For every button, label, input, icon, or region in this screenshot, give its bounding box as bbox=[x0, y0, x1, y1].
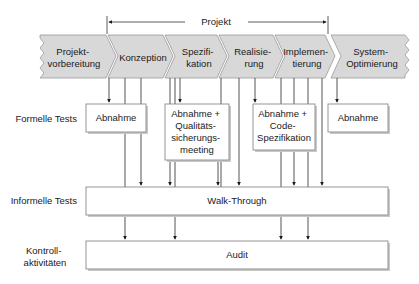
svg-text:Abnahme: Abnahme bbox=[338, 112, 379, 123]
phase-test-diagram: Projekt Projekt- vorbereitung Konzeption… bbox=[0, 0, 419, 284]
row-label-control-activities: Kontroll- aktivitäten bbox=[24, 245, 67, 268]
phase-label-spezifikation: Spezifi- kation bbox=[182, 46, 216, 69]
phase-label-konzeption: Konzeption bbox=[119, 52, 167, 63]
svg-text:Audit: Audit bbox=[226, 249, 248, 260]
formal-box-abnahme-1: Abnahme bbox=[86, 104, 148, 134]
formal-box-abnahme-qs: Abnahme + Qualitäts- sicherungs- meeting bbox=[165, 104, 231, 162]
svg-text:Abnahme: Abnahme bbox=[96, 112, 137, 123]
project-label: Projekt bbox=[201, 16, 231, 27]
phase-label-system-optimierung: System- Optimierung bbox=[346, 46, 398, 69]
audit-box: Audit bbox=[86, 241, 390, 271]
project-bracket: Projekt bbox=[107, 16, 328, 34]
walk-through-box: Walk-Through bbox=[86, 187, 390, 217]
formal-box-abnahme-code: Abnahme + Code- Spezifikation bbox=[253, 104, 317, 152]
row-label-formal-tests: Formelle Tests bbox=[15, 113, 77, 124]
phase-band: Projekt- vorbereitung Konzeption Spezifi… bbox=[40, 35, 409, 78]
formal-box-abnahme-2: Abnahme bbox=[328, 104, 390, 134]
svg-text:Walk-Through: Walk-Through bbox=[207, 195, 266, 206]
row-label-informal-tests: Informelle Tests bbox=[11, 195, 78, 206]
